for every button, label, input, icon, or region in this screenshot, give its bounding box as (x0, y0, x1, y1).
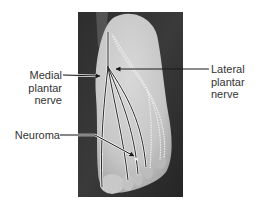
neuroma-leader-line (60, 135, 134, 156)
lateral-label-line-3: nerve (211, 88, 259, 101)
medial-label-line-3: nerve (22, 94, 62, 107)
medial-plantar-nerve-label: Medial plantar nerve (22, 69, 62, 107)
medial-label-line-2: plantar (22, 82, 62, 95)
medial-label-line-1: Medial (22, 69, 62, 82)
lateral-label-line-2: plantar (211, 76, 259, 89)
neuroma-label-text: Neuroma (10, 129, 60, 142)
lateral-label-line-1: Lateral (211, 63, 259, 76)
neuroma-label: Neuroma (10, 129, 60, 142)
lateral-plantar-nerve-label: Lateral plantar nerve (211, 63, 259, 101)
